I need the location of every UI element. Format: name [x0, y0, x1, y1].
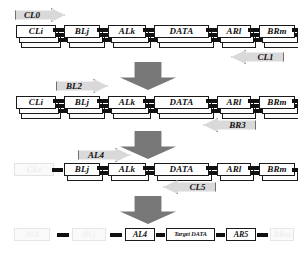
box-subtext [16, 39, 56, 43]
box-subtext [64, 110, 100, 114]
gene-box-label: DATA [154, 163, 209, 176]
gene-box-ar5-final[interactable]: AR5 [226, 228, 256, 241]
gene-box-alk-r3[interactable]: ALk [108, 163, 146, 178]
side-arrow-label: BR3 [203, 121, 256, 130]
box-subtext [64, 39, 100, 43]
side-arrow-label: AL4 [78, 151, 130, 160]
gene-box-label: ARl [217, 163, 251, 176]
connector-dash [110, 233, 122, 237]
gene-box-label: ARl [217, 96, 251, 109]
box-subtext [259, 39, 295, 43]
gene-box-label: BLj [64, 96, 100, 109]
gene-box-final-ghost-1: ALk [14, 228, 50, 241]
gene-box-data-r2[interactable]: DATA [154, 96, 209, 111]
side-arrow-cl5[interactable]: CL5 [163, 180, 216, 194]
gene-box-blj-r2[interactable]: BLj [64, 96, 100, 111]
side-arrow-cl1[interactable]: CL1 [231, 50, 284, 64]
gene-box-brm-r1[interactable]: BRm [259, 25, 295, 40]
gene-box-label: ALk [108, 163, 146, 176]
down-arrow-3-icon [120, 196, 176, 224]
box-subtext [64, 44, 100, 48]
gene-box-blj-r1[interactable]: BLj [64, 25, 100, 40]
gene-box-label: DATA [154, 25, 209, 38]
gene-box-data-r1[interactable]: DATA [154, 25, 209, 40]
gene-box-arl-r1[interactable]: ARl [217, 25, 251, 40]
side-arrow-bl2[interactable]: BL2 [56, 79, 108, 93]
gene-box-data-r3[interactable]: DATA [154, 163, 209, 178]
box-subtext [108, 39, 146, 43]
side-arrow-label: BL2 [56, 82, 108, 91]
gene-box-arl-r2[interactable]: ARl [217, 96, 251, 111]
gene-box-label: BLj [64, 163, 100, 176]
gene-box-label: ARl [217, 25, 251, 38]
gene-box-label: CLi [16, 25, 56, 38]
gene-box-label: BRm [259, 96, 295, 109]
gene-box-cli-r3-ghost: CLi [14, 163, 54, 178]
box-subtext [154, 44, 209, 48]
box-subtext [154, 110, 209, 114]
connector-dash [257, 233, 268, 237]
side-arrow-cl0[interactable]: CL0 [15, 8, 65, 22]
box-subtext [108, 110, 146, 114]
side-arrow-label: CL1 [231, 53, 284, 62]
box-subtext [16, 44, 56, 48]
box-subtext [259, 44, 295, 48]
box-subtext [217, 44, 251, 48]
box-subtext [259, 115, 295, 119]
side-arrow-label: CL0 [15, 11, 65, 20]
box-subtext [108, 44, 146, 48]
box-subtext [259, 110, 295, 114]
gene-box-label: ALk [108, 96, 146, 109]
gene-box-al4-final[interactable]: AL4 [125, 228, 155, 241]
box-subtext [16, 110, 56, 114]
gene-box-final-ghost-2: BLj [72, 228, 106, 241]
sequence-row-4-final: ALk BLj AL4 Target DATA AR5 BRm [0, 228, 298, 246]
box-subtext [217, 110, 251, 114]
gene-box-label: ALk [108, 25, 146, 38]
connector-dash [156, 233, 165, 237]
box-subtext [217, 39, 251, 43]
side-arrow-label: CL5 [163, 183, 216, 192]
gene-box-label: CLi [14, 163, 54, 176]
connector-dash [216, 233, 225, 237]
box-subtext [154, 39, 209, 43]
side-arrow-br3[interactable]: BR3 [203, 118, 256, 132]
sequence-row-3: CLi BLj ALk DATA ARl [0, 163, 298, 197]
gene-box-cli-r1[interactable]: CLi [16, 25, 56, 40]
gene-box-cli-r2[interactable]: CLi [16, 96, 56, 111]
gene-box-target-data-final[interactable]: Target DATA [166, 228, 215, 241]
gene-box-label: BLj [64, 25, 100, 38]
gene-box-label: BRm [259, 163, 295, 176]
gene-box-brm-r2[interactable]: BRm [259, 96, 295, 111]
diagram-canvas: CLi BLj ALk [0, 0, 298, 255]
gene-box-label: DATA [154, 96, 209, 109]
down-arrow-1-icon [120, 62, 176, 90]
gene-box-label: CLi [16, 96, 56, 109]
gene-box-alk-r1[interactable]: ALk [108, 25, 146, 40]
gene-box-label: BRm [259, 25, 295, 38]
connector-dash [57, 233, 69, 237]
gene-box-final-ghost-3: BRm [270, 228, 294, 241]
gene-box-alk-r2[interactable]: ALk [108, 96, 146, 111]
gene-box-blj-r3[interactable]: BLj [64, 163, 100, 178]
side-arrow-al4[interactable]: AL4 [78, 148, 130, 162]
gene-box-arl-r3[interactable]: ARl [217, 163, 251, 178]
gene-box-brm-r3[interactable]: BRm [259, 163, 295, 178]
